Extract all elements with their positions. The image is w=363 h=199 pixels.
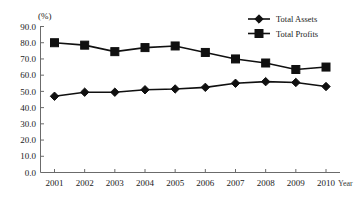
x-tick-label: 2002	[76, 178, 94, 188]
diamond-marker	[255, 15, 263, 23]
legend-label: Total Assets	[276, 14, 317, 24]
y-tick-label: 90.0	[20, 22, 36, 32]
legend-entry: Total Assets	[248, 14, 317, 24]
data-point-marker	[141, 44, 149, 52]
x-tick-label: 2010	[317, 178, 336, 188]
x-axis-ticks	[55, 169, 327, 173]
line-chart-figure: (%) 0.010.020.030.040.050.060.070.080.09…	[0, 0, 363, 199]
y-tick-label: 20.0	[20, 135, 36, 145]
y-tick-label: 30.0	[20, 119, 36, 129]
x-axis-tick-labels: 2001200220032004200520062007200820092010	[46, 178, 336, 188]
y-tick-label: 50.0	[20, 87, 36, 97]
x-tick-label: 2006	[196, 178, 215, 188]
y-axis-unit-label: (%)	[38, 11, 52, 21]
x-tick-label: 2007	[227, 178, 246, 188]
y-tick-label: 60.0	[20, 70, 36, 80]
x-tick-label: 2001	[46, 178, 64, 188]
y-axis-ticks	[41, 27, 45, 173]
y-tick-label: 70.0	[20, 54, 36, 64]
square-marker	[255, 30, 263, 38]
data-point-marker	[141, 86, 149, 94]
data-point-marker	[232, 55, 240, 63]
data-point-marker	[322, 82, 330, 90]
data-point-marker	[171, 85, 179, 93]
data-point-marker	[171, 42, 179, 50]
data-point-marker	[262, 59, 270, 67]
legend-entry: Total Profits	[248, 29, 318, 39]
series-line-path	[55, 82, 327, 97]
data-point-marker	[231, 79, 239, 87]
data-point-marker	[292, 78, 300, 86]
x-tick-label: 2009	[287, 178, 306, 188]
x-tick-label: 2005	[166, 178, 185, 188]
data-point-marker	[111, 88, 119, 96]
data-point-marker	[201, 83, 209, 91]
chart-canvas: (%) 0.010.020.030.040.050.060.070.080.09…	[0, 0, 363, 199]
series-2	[51, 39, 331, 74]
y-tick-label: 40.0	[20, 103, 36, 113]
data-point-marker	[51, 39, 59, 47]
x-axis-name-label: Year	[338, 179, 353, 188]
data-point-marker	[111, 48, 119, 56]
data-point-marker	[292, 65, 300, 73]
series-line-path	[55, 43, 327, 70]
data-point-marker	[201, 48, 209, 56]
data-point-marker	[81, 41, 89, 49]
data-point-marker	[80, 88, 88, 96]
chart-legend: Total AssetsTotal Profits	[248, 14, 318, 39]
data-point-marker	[50, 92, 58, 100]
y-tick-label: 10.0	[20, 151, 36, 161]
data-point-marker	[261, 77, 269, 85]
data-point-marker	[322, 63, 330, 71]
y-axis-tick-labels: 0.010.020.030.040.050.060.070.080.090.0	[20, 22, 36, 178]
data-series-layer	[50, 39, 330, 101]
x-tick-label: 2003	[106, 178, 125, 188]
x-tick-label: 2004	[136, 178, 155, 188]
x-tick-label: 2008	[257, 178, 276, 188]
legend-label: Total Profits	[276, 29, 318, 39]
y-tick-label: 80.0	[20, 38, 36, 48]
series-1	[50, 77, 330, 100]
y-tick-label: 0.0	[25, 168, 37, 178]
